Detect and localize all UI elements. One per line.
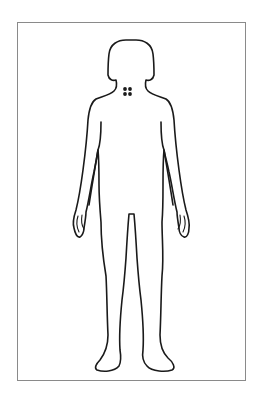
marker-dot	[128, 92, 132, 96]
neck-marker	[123, 87, 132, 96]
marker-dot	[123, 87, 127, 91]
body-outline-figure: Body map — front view	[0, 0, 266, 405]
marker-dot	[123, 92, 127, 96]
left-hand-detail	[77, 215, 84, 232]
marker-dot	[128, 87, 132, 91]
